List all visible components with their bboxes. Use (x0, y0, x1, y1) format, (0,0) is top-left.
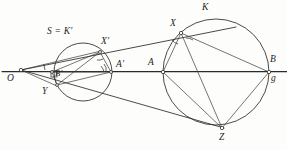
point-Y (56, 84, 59, 87)
point-Aprime (110, 71, 113, 74)
chord-Z-B (222, 72, 269, 128)
point-Xprime (99, 51, 102, 54)
point-A (161, 70, 164, 73)
label-Y: Y (42, 87, 47, 97)
label-Aprime: A′ (116, 60, 124, 70)
point-X (179, 31, 182, 34)
chord-Xprime-Aprime (100, 52, 111, 72)
point-O (19, 68, 22, 71)
chord-X-Z (181, 33, 222, 128)
geometry-canvas (0, 0, 287, 150)
label-A: A (148, 58, 154, 68)
label-Z: Z (219, 133, 224, 143)
label-K: K (202, 3, 209, 13)
label-Bprime: B′ (55, 69, 62, 78)
angle-arc-Xprime (97, 59, 103, 60)
label-S-equals-Kprime: S = K′ (47, 27, 73, 37)
angle-arc-X-right (186, 38, 193, 40)
ray-O-Y-Z (21, 70, 224, 128)
point-Z (220, 126, 223, 129)
chord-A-X (163, 33, 181, 72)
label-X: X (170, 19, 176, 29)
label-O: O (7, 74, 14, 84)
label-B: B (270, 55, 276, 65)
point-Bprime (51, 71, 54, 74)
label-Xprime: X′ (101, 37, 109, 47)
geometry-figure: O S = K′ X′ A′ B′ Y A B g K X Z (0, 0, 287, 150)
chord-X-B (181, 33, 269, 72)
angle-arc-Aprime-inner (104, 64, 106, 72)
label-g: g (271, 74, 276, 84)
